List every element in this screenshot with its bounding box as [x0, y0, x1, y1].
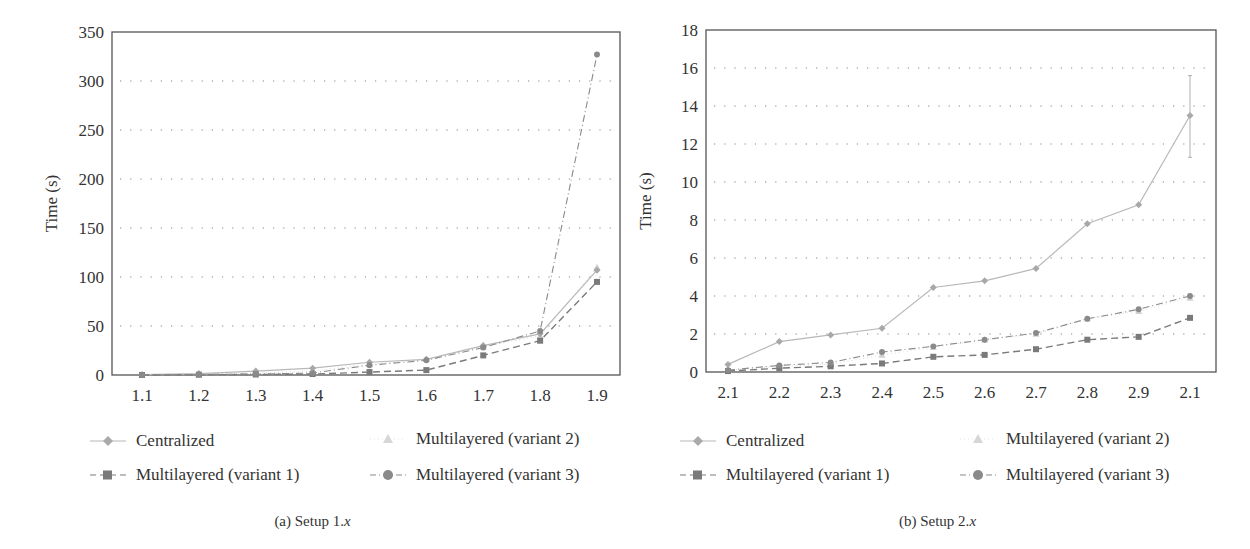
- circle-marker-icon: [828, 360, 834, 366]
- chart-panel-a: 0501001502002503003501.11.21.31.41.51.61…: [0, 0, 625, 549]
- diamond-marker-icon: [776, 338, 783, 345]
- legend-item-variant3: Multilayered (variant 3): [370, 465, 579, 485]
- legend-item-variant3: Multilayered (variant 3): [960, 465, 1169, 485]
- circle-marker-icon: [367, 362, 373, 368]
- y-tick-label: 12: [681, 135, 698, 154]
- legend-label: Multilayered (variant 3): [416, 465, 579, 485]
- legend-label: Multilayered (variant 1): [726, 465, 889, 485]
- legend-item-centralized: Centralized: [90, 431, 214, 451]
- square-marker-icon: [879, 360, 885, 366]
- y-tick-label: 50: [87, 317, 104, 336]
- legend-label: Centralized: [726, 431, 804, 451]
- diamond-marker-icon: [90, 435, 126, 447]
- series-multilayered-variant-3-: [725, 293, 1193, 373]
- legend-item-variant1: Multilayered (variant 1): [90, 465, 299, 485]
- diamond-marker-icon: [680, 435, 716, 447]
- square-marker-icon: [1084, 337, 1090, 343]
- series-line: [142, 55, 597, 375]
- square-marker-icon: [594, 279, 600, 285]
- x-tick-label: 1.2: [188, 386, 209, 405]
- square-marker-icon: [1187, 315, 1193, 321]
- circle-marker-icon: [776, 362, 782, 368]
- circle-marker-icon: [879, 349, 885, 355]
- x-tick-label: 2.1: [1179, 383, 1200, 402]
- y-axis-label: Time (s): [42, 175, 61, 232]
- circle-marker-icon: [1136, 306, 1142, 312]
- diamond-marker-icon: [827, 331, 834, 338]
- series-multilayered-variant-3-: [139, 52, 600, 378]
- legend-item-variant2: Multilayered (variant 2): [960, 429, 1169, 449]
- circle-marker-icon: [139, 372, 145, 378]
- x-tick-label: 2.8: [1077, 383, 1098, 402]
- circle-marker-icon: [960, 469, 996, 481]
- square-marker-icon: [423, 367, 429, 373]
- x-tick-label: 1.4: [302, 386, 324, 405]
- square-marker-icon: [982, 352, 988, 358]
- circle-marker-icon: [480, 345, 486, 351]
- square-marker-icon: [1136, 334, 1142, 340]
- y-tick-label: 16: [681, 59, 698, 78]
- square-marker-icon: [480, 352, 486, 358]
- circle-marker-icon: [537, 328, 543, 334]
- y-tick-label: 8: [690, 211, 699, 230]
- y-tick-label: 6: [690, 249, 699, 268]
- triangle-marker-icon: [960, 433, 996, 445]
- legend-label: Multilayered (variant 2): [416, 429, 579, 449]
- x-tick-label: 2.5: [923, 383, 944, 402]
- circle-marker-icon: [594, 52, 600, 58]
- x-tick-label: 1.5: [359, 386, 380, 405]
- circle-marker-icon: [310, 370, 316, 376]
- y-axis-label: Time (s): [636, 172, 655, 229]
- legend-label: Centralized: [136, 431, 214, 451]
- legend-label: Multilayered (variant 1): [136, 465, 299, 485]
- caption-a: (a) Setup 1.x: [0, 513, 625, 530]
- series-line: [728, 318, 1190, 371]
- x-tick-label: 1.1: [131, 386, 152, 405]
- y-tick-label: 350: [79, 23, 105, 42]
- series-multilayered-variant-1-: [725, 315, 1193, 374]
- y-tick-label: 2: [690, 325, 699, 344]
- series-line: [728, 296, 1190, 370]
- circle-marker-icon: [1084, 316, 1090, 322]
- square-marker-icon: [367, 369, 373, 375]
- x-tick-label: 1.8: [530, 386, 551, 405]
- square-marker-icon: [930, 354, 936, 360]
- y-tick-label: 150: [79, 219, 105, 238]
- circle-marker-icon: [1033, 330, 1039, 336]
- legend-label: Multilayered (variant 2): [1006, 429, 1169, 449]
- x-tick-label: 1.3: [245, 386, 266, 405]
- y-tick-label: 0: [690, 363, 699, 382]
- line-chart-setup-2: 0246810121416182.12.22.32.42.52.62.72.82…: [625, 0, 1250, 420]
- caption-variable: x: [969, 513, 976, 529]
- diamond-marker-icon: [981, 277, 988, 284]
- series-line: [728, 116, 1190, 365]
- circle-marker-icon: [1187, 293, 1193, 299]
- plot-frame: [706, 30, 1216, 372]
- chart-panel-b: 0246810121416182.12.22.32.42.52.62.72.82…: [625, 0, 1250, 549]
- series-centralized: [139, 267, 601, 378]
- series-line: [142, 267, 597, 375]
- caption-text: (b) Setup 2.: [899, 513, 969, 529]
- y-tick-label: 14: [681, 97, 699, 116]
- y-tick-label: 200: [79, 170, 105, 189]
- y-tick-label: 18: [681, 21, 698, 40]
- caption-text: (a) Setup 1.: [274, 513, 344, 529]
- legend-label: Multilayered (variant 3): [1006, 465, 1169, 485]
- legend-b: Centralized Multilayered (variant 2) Mul…: [625, 420, 1250, 500]
- circle-marker-icon: [982, 337, 988, 343]
- x-tick-label: 2.9: [1128, 383, 1149, 402]
- diamond-marker-icon: [1135, 201, 1142, 208]
- y-tick-label: 4: [690, 287, 699, 306]
- x-tick-label: 1.7: [473, 386, 495, 405]
- x-tick-label: 1.6: [416, 386, 437, 405]
- x-tick-label: 2.6: [974, 383, 995, 402]
- y-tick-label: 100: [79, 268, 105, 287]
- square-marker-icon: [680, 469, 716, 481]
- x-tick-label: 1.9: [586, 386, 607, 405]
- plot-frame: [112, 32, 620, 375]
- caption-b: (b) Setup 2.x: [625, 513, 1250, 530]
- y-tick-label: 250: [79, 121, 105, 140]
- x-tick-label: 2.2: [769, 383, 790, 402]
- y-tick-label: 0: [96, 366, 105, 385]
- legend-item-variant1: Multilayered (variant 1): [680, 465, 889, 485]
